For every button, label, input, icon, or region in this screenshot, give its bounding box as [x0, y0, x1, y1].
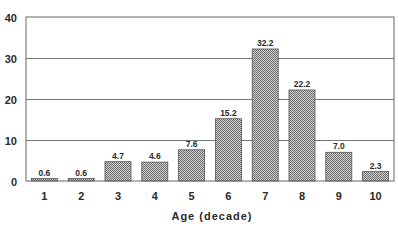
- bar: [179, 150, 205, 181]
- bar-value-label: 7.6: [186, 139, 198, 149]
- bar-value-label: 4.7: [112, 151, 124, 161]
- bar-value-label: 7.0: [333, 141, 345, 151]
- y-tick-label: 0: [11, 176, 17, 188]
- bar: [289, 90, 315, 181]
- bar-value-label: 0.6: [75, 168, 87, 178]
- y-tick-label: 40: [5, 12, 17, 24]
- bar-value-label: 15.2: [220, 108, 237, 118]
- x-tick-label: 1: [41, 190, 47, 202]
- x-tick-label: 2: [78, 190, 84, 202]
- x-tick-label: 5: [189, 190, 195, 202]
- x-axis-ticks: 12345678910: [41, 190, 381, 202]
- gridlines: [26, 59, 394, 141]
- y-axis-ticks: 010203040: [5, 12, 17, 188]
- bar-value-label: 22.2: [294, 79, 311, 89]
- x-tick-label: 7: [262, 190, 268, 202]
- bars: 0.60.64.74.67.615.232.222.27.02.3: [31, 38, 388, 181]
- bar-value-label: 4.6: [149, 151, 161, 161]
- x-tick-label: 8: [299, 190, 305, 202]
- bar: [142, 162, 168, 181]
- bar-value-label: 32.2: [257, 38, 274, 48]
- x-tick-label: 9: [336, 190, 342, 202]
- bar-value-label: 2.3: [370, 161, 382, 171]
- x-tick-label: 6: [225, 190, 231, 202]
- bar: [252, 49, 278, 181]
- bar: [363, 172, 389, 181]
- x-tick-label: 3: [115, 190, 121, 202]
- bar-chart: 010203040 0.60.64.74.67.615.232.222.27.0…: [0, 0, 398, 228]
- x-tick-label: 10: [369, 190, 381, 202]
- x-tick-label: 4: [152, 190, 159, 202]
- bar: [105, 162, 131, 181]
- y-tick-label: 20: [5, 94, 17, 106]
- x-axis-label: Age (decade): [171, 210, 252, 222]
- y-tick-label: 30: [5, 53, 17, 65]
- bar: [215, 119, 241, 181]
- y-tick-label: 10: [5, 135, 17, 147]
- bar-value-label: 0.6: [38, 168, 50, 178]
- bar: [326, 152, 352, 181]
